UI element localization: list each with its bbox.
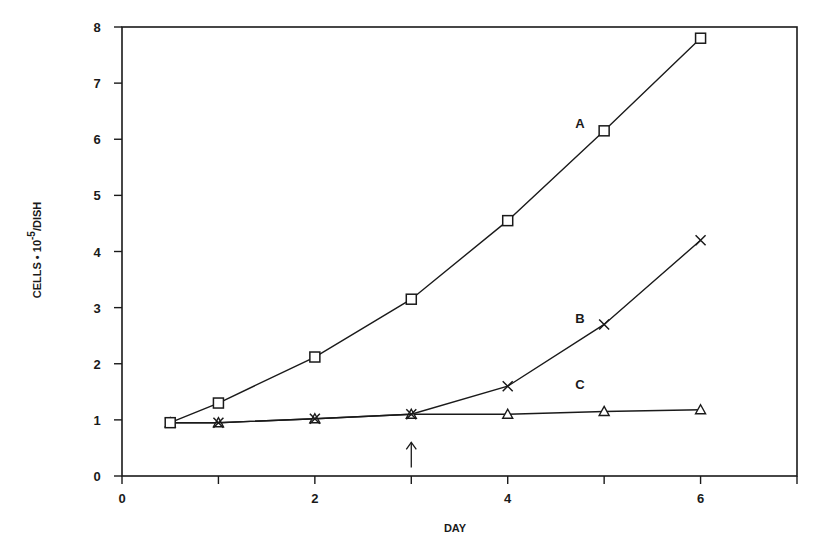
series-label-c: C [575, 377, 585, 392]
x-tick-label: 0 [118, 491, 125, 506]
series-group [165, 33, 705, 427]
series-label-b: B [575, 311, 584, 326]
x-axis-ticks: 0246 [118, 476, 797, 506]
y-tick-label: 4 [93, 245, 101, 260]
x-marker [696, 235, 706, 245]
series-line-a [170, 38, 700, 422]
x-axis-label: DAY [444, 522, 467, 534]
series-c [165, 405, 705, 427]
square-marker [599, 126, 609, 136]
x-tick-label: 6 [697, 491, 704, 506]
y-tick-label: 7 [93, 76, 100, 91]
y-axis-label-main: CELLS • 10 [31, 240, 43, 298]
square-marker [503, 216, 513, 226]
square-marker [406, 294, 416, 304]
x-marker [503, 381, 513, 391]
y-tick-label: 5 [93, 188, 100, 203]
y-tick-label: 0 [93, 469, 100, 484]
series-labels: ABC [575, 116, 585, 392]
square-marker [696, 33, 706, 43]
y-tick-label: 8 [93, 20, 100, 35]
square-marker [165, 418, 175, 428]
square-marker [310, 352, 320, 362]
y-tick-label: 1 [93, 413, 100, 428]
x-tick-label: 2 [311, 491, 318, 506]
series-b [165, 235, 705, 427]
x-marker [599, 319, 609, 329]
growth-chart: 012345678 0246 ABC DAY CELLS • 10-5/DISH [0, 0, 814, 550]
y-tick-label: 6 [93, 132, 100, 147]
series-line-b [170, 240, 700, 422]
series-a [165, 33, 705, 427]
x-tick-label: 4 [504, 491, 512, 506]
y-axis-label: CELLS • 10-5/DISH [26, 202, 43, 299]
y-tick-label: 3 [93, 301, 100, 316]
y-axis-label-suffix: /DISH [31, 202, 43, 231]
y-tick-label: 2 [93, 357, 100, 372]
annotations [406, 442, 416, 467]
y-axis-ticks: 012345678 [93, 20, 122, 484]
series-label-a: A [575, 116, 585, 131]
square-marker [213, 398, 223, 408]
